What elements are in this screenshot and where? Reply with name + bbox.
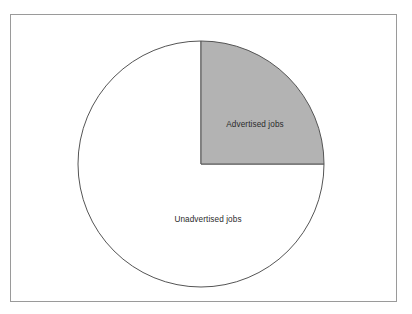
figure-root: Advertised jobs Unadvertised jobs	[0, 0, 412, 314]
pie-chart-graphic	[0, 0, 412, 314]
pie-slice-advertised-jobs	[201, 41, 324, 164]
pie-label-unadvertised-jobs: Unadvertised jobs	[174, 215, 241, 225]
pie-label-advertised-jobs: Advertised jobs	[226, 120, 283, 130]
